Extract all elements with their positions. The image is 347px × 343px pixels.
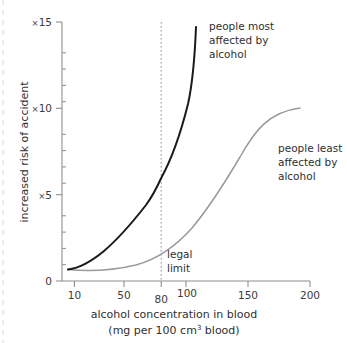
x-tick-label-50: 50 xyxy=(117,289,130,301)
x-tick-label-200: 200 xyxy=(300,289,320,301)
chart-canvas: ×15 ×10 ×5 0 10 50 80 100 150 200 xyxy=(0,0,347,343)
x-axis-units-pre: (mg per 100 cm xyxy=(108,324,197,337)
series-line-people-most-affected xyxy=(68,27,196,270)
x-axis-tick-labels: 10 50 80 100 150 200 xyxy=(68,287,320,305)
x-tick-label-150: 150 xyxy=(238,289,258,301)
x-axis-title-units: (mg per 100 cm3 blood) xyxy=(108,324,239,337)
label-least-line2: affected by xyxy=(278,156,337,168)
legal-limit-line2: limit xyxy=(167,262,190,274)
y-tick-multiplier-5: × xyxy=(38,191,45,201)
x-axis-title: alcohol concentration in blood xyxy=(91,308,258,321)
series-line-people-least-affected xyxy=(68,108,300,271)
svg-text:×10: ×10 xyxy=(32,102,53,114)
chart-figure: ×15 ×10 ×5 0 10 50 80 100 150 200 xyxy=(0,0,347,343)
y-axis-tick-labels: ×15 ×10 ×5 0 xyxy=(32,16,53,287)
label-most-line1: people most xyxy=(209,20,274,32)
y-axis-minor-ticks xyxy=(62,53,66,265)
label-least-line1: people least xyxy=(278,142,342,154)
y-tick-label-15: 15 xyxy=(39,16,52,28)
legal-limit-line1: legal xyxy=(167,248,192,260)
y-tick-label-0: 0 xyxy=(45,275,52,287)
y-tick-multiplier-15: × xyxy=(32,18,39,28)
label-least-line3: alcohol xyxy=(278,170,316,182)
y-tick-label-10: 10 xyxy=(39,102,52,114)
label-most-line3: alcohol xyxy=(209,48,247,60)
annotation-people-least-affected: people least affected by alcohol xyxy=(278,142,342,182)
svg-text:×15: ×15 xyxy=(32,16,53,28)
x-tick-label-100: 100 xyxy=(177,287,197,299)
y-axis-major-ticks xyxy=(56,22,62,281)
y-axis-title: increased risk of accident xyxy=(18,81,31,223)
svg-text:×5: ×5 xyxy=(38,189,52,201)
x-tick-label-80: 80 xyxy=(155,293,168,305)
y-tick-multiplier-10: × xyxy=(32,104,39,114)
x-tick-label-10: 10 xyxy=(68,289,81,301)
y-tick-label-5: 5 xyxy=(45,189,52,201)
x-axis-units-post: blood) xyxy=(201,324,239,337)
label-most-line2: affected by xyxy=(209,34,268,46)
annotation-people-most-affected: people most affected by alcohol xyxy=(209,20,274,60)
annotation-legal-limit: legal limit xyxy=(167,248,192,274)
